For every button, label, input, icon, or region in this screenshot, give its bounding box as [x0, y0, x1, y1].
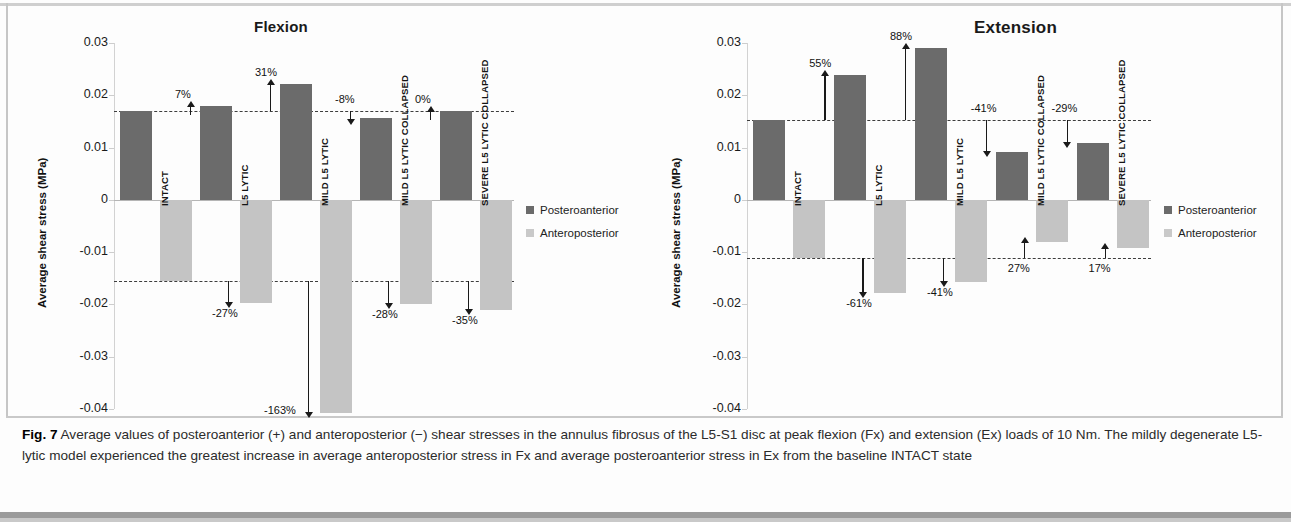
- flexion-legend: Posteroanterior Anteroposterior: [526, 204, 619, 250]
- annotation-arrow-anteroposterior: [228, 281, 230, 303]
- figure-caption-label: Fig. 7: [22, 427, 58, 442]
- bar-anteroposterior: [874, 200, 906, 294]
- annotation-label-posteroanterior: 31%: [255, 66, 277, 78]
- y-axis-tick-label: -0.04: [62, 401, 108, 415]
- bar-anteroposterior: [240, 200, 272, 303]
- annotation-arrow-anteroposterior: [388, 281, 390, 304]
- annotation-label-posteroanterior: 0%: [415, 93, 431, 105]
- y-axis-tick: [742, 200, 747, 201]
- legend-swatch-posteroanterior: [1164, 206, 1172, 214]
- y-axis-tick: [109, 148, 114, 149]
- bar-anteroposterior: [160, 200, 192, 281]
- bar-posteroanterior: [440, 111, 472, 200]
- extension-legend: Posteroanterior Anteroposterior: [1164, 204, 1257, 250]
- y-axis-tick: [742, 252, 747, 253]
- extension-chart-title: Extension: [698, 18, 1291, 38]
- annotation-arrow-anteroposterior: [308, 281, 310, 413]
- y-axis-tick-label: -0.02: [695, 296, 741, 310]
- annotation-arrow-posteroanterior: [905, 48, 907, 120]
- bar-posteroanterior: [915, 48, 947, 200]
- annotation-label-posteroanterior: -29%: [1052, 102, 1078, 114]
- y-axis-tick-label: -0.02: [62, 296, 108, 310]
- bar-anteroposterior: [955, 200, 987, 282]
- annotation-label-posteroanterior: -41%: [971, 102, 997, 114]
- category-label: SEVERE L5 LYTIC COLLAPSED: [1116, 59, 1127, 206]
- reference-line: [114, 281, 514, 282]
- legend-swatch-anteroposterior: [1164, 229, 1172, 237]
- annotation-label-posteroanterior: 55%: [809, 57, 831, 69]
- annotation-arrow-posteroanterior: [986, 120, 988, 152]
- annotation-arrow-anteroposterior: [943, 258, 945, 282]
- y-axis-tick: [742, 148, 747, 149]
- bar-posteroanterior: [280, 84, 312, 200]
- annotation-arrow-posteroanterior: [1067, 120, 1069, 144]
- y-axis-tick: [742, 95, 747, 96]
- annotation-arrow-anteroposterior: [468, 281, 470, 310]
- bar-posteroanterior: [1077, 143, 1109, 199]
- bar-anteroposterior: [480, 200, 512, 310]
- annotation-arrow-posteroanterior: [824, 75, 826, 119]
- y-axis-tick-label: 0.03: [62, 35, 108, 49]
- figure-caption: Fig. 7 Average values of posteroanterior…: [22, 424, 1268, 466]
- annotation-arrow-anteroposterior: [1105, 248, 1107, 258]
- legend-label-anteroposterior: Anteroposterior: [540, 227, 619, 239]
- y-axis-tick-label: 0.01: [62, 140, 108, 154]
- bar-posteroanterior: [834, 75, 866, 199]
- bar-anteroposterior: [320, 200, 352, 413]
- annotation-label-anteroposterior: -27%: [212, 307, 238, 319]
- category-label: MILD L5 LYTIC COLLAPSED: [399, 75, 410, 206]
- annotation-arrow-posteroanterior: [350, 111, 352, 120]
- y-axis-tick-label: 0.03: [695, 35, 741, 49]
- bar-anteroposterior: [1036, 200, 1068, 242]
- bar-posteroanterior: [753, 120, 785, 200]
- annotation-label-anteroposterior: 27%: [1008, 262, 1030, 274]
- legend-label-posteroanterior: Posteroanterior: [540, 204, 619, 216]
- y-axis-tick: [109, 252, 114, 253]
- y-axis-line: [114, 43, 115, 409]
- left-border: [6, 3, 8, 418]
- flexion-y-axis-label: Average shear stress (MPa): [36, 158, 48, 308]
- annotation-label-anteroposterior: -163%: [264, 404, 296, 416]
- legend-item-posteroanterior: Posteroanterior: [526, 204, 619, 216]
- y-axis-tick-label: 0.01: [695, 140, 741, 154]
- figure-caption-text: Average values of posteroanterior (+) an…: [22, 427, 1262, 463]
- annotation-arrow-anteroposterior: [862, 258, 864, 294]
- figure-container: Flexion Average shear stress (MPa) INTAC…: [0, 0, 1291, 522]
- extension-chart-panel: Extension Average shear stress (MPa) INT…: [648, 8, 1283, 416]
- y-axis-tick: [109, 95, 114, 96]
- annotation-arrow-posteroanterior: [430, 111, 432, 120]
- y-axis-tick-label: -0.04: [695, 401, 741, 415]
- category-label: SEVERE L5 LYTIC COLLAPSED: [479, 59, 490, 206]
- y-axis-tick: [109, 200, 114, 201]
- bar-posteroanterior: [120, 111, 152, 200]
- bar-anteroposterior: [1117, 200, 1149, 248]
- legend-label-posteroanterior: Posteroanterior: [1178, 204, 1257, 216]
- y-axis-tick-label: -0.03: [695, 349, 741, 363]
- y-axis-tick: [109, 357, 114, 358]
- annotation-label-anteroposterior: -35%: [452, 314, 478, 326]
- reference-line: [747, 258, 1151, 259]
- caption-divider: [6, 416, 1283, 418]
- y-axis-tick-label: -0.01: [695, 244, 741, 258]
- bottom-divider-secondary: [0, 518, 1291, 522]
- flexion-plot-area: INTACTL5 LYTIC7%-27%MILD L5 LYTIC31%-163…: [114, 43, 514, 409]
- category-label: L5 LYTIC: [239, 164, 250, 206]
- extension-plot-area: INTACTL5 LYTIC55%-61%MILD L5 LYTIC88%-41…: [747, 43, 1151, 409]
- category-label: MILD L5 LYTIC: [319, 138, 330, 206]
- legend-swatch-anteroposterior: [526, 229, 534, 237]
- y-axis-tick: [742, 43, 747, 44]
- annotation-label-posteroanterior: 88%: [890, 30, 912, 42]
- annotation-arrow-posteroanterior: [190, 106, 192, 115]
- reference-line: [747, 120, 1151, 121]
- y-axis-tick-label: -0.01: [62, 244, 108, 258]
- annotation-label-posteroanterior: 7%: [175, 88, 191, 100]
- annotation-label-anteroposterior: 17%: [1089, 262, 1111, 274]
- y-axis-tick: [109, 304, 114, 305]
- y-axis-tick-label: 0: [695, 192, 741, 206]
- y-axis-tick-label: 0: [62, 192, 108, 206]
- category-label: MILD L5 LYTIC COLLAPSED: [1035, 75, 1046, 206]
- legend-swatch-posteroanterior: [526, 206, 534, 214]
- legend-label-anteroposterior: Anteroposterior: [1178, 227, 1257, 239]
- category-label: MILD L5 LYTIC: [954, 138, 965, 206]
- annotation-label-anteroposterior: -61%: [846, 297, 872, 309]
